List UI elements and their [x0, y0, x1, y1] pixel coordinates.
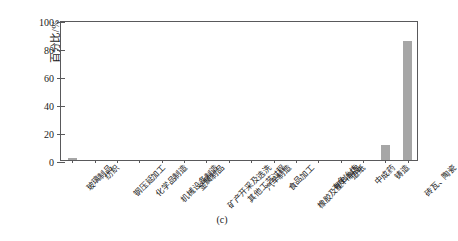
x-tick-label: 砖瓦、陶瓷	[423, 163, 458, 198]
y-tick-label: 60	[44, 73, 54, 84]
y-tick-mark-inner	[61, 22, 65, 23]
bar-series	[61, 22, 417, 160]
y-tick-mark-inner	[61, 50, 65, 51]
x-tick-label: 铸造	[393, 163, 411, 181]
y-tick-label: 100	[39, 17, 54, 28]
y-tick-mark-inner	[61, 106, 65, 107]
y-tick-mark-inner	[61, 134, 65, 135]
y-tick-label: 80	[44, 45, 54, 56]
y-tick-label: 40	[44, 101, 54, 112]
y-tick-label: 20	[44, 129, 54, 140]
y-tick-label: 0	[49, 157, 54, 168]
bar	[403, 41, 412, 160]
figure-caption: (c)	[0, 214, 444, 225]
y-tick-mark-inner	[61, 78, 65, 79]
plot-area: 020406080100	[60, 21, 418, 161]
bar	[381, 145, 390, 160]
